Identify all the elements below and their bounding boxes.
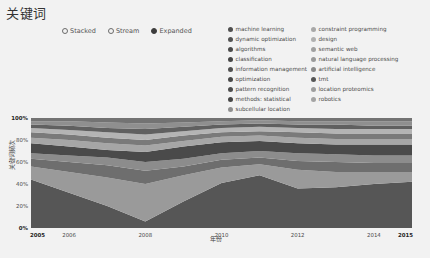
legend-swatch-icon [228,67,233,72]
legend-item[interactable]: methods: statistical [228,95,307,104]
legend-swatch-icon [311,47,316,52]
y-axis-tick-label: 20% [16,203,28,209]
x-axis-tick-label: 2005 [30,232,45,238]
legend-swatch-icon [228,87,233,92]
legend-swatch-icon [228,47,233,52]
legend-item[interactable]: classification [228,55,307,64]
x-axis-tick-label: 2006 [62,232,76,238]
legend-swatch-icon [228,57,233,62]
legend-item-label: algorithms [236,45,266,54]
legend-swatch-icon [311,77,316,82]
legend-swatch-icon [311,97,316,102]
y-axis-tick-label: 0% [19,225,29,231]
legend-item-label: information management [236,65,308,74]
legend-swatch-icon [311,87,316,92]
y-axis-title: 关键词频次 [8,140,16,170]
legend-item-label: design [319,35,338,44]
chart-legend: machine learning dynamic optimization al… [228,25,398,114]
legend-item-label: robotics [319,95,341,104]
legend-item-label: optimization [236,75,271,84]
legend-swatch-icon [228,77,233,82]
legend-item[interactable]: robotics [311,95,398,104]
y-axis: 100%80%60%40%20%0% [11,115,28,231]
legend-swatch-icon [228,37,233,42]
legend-item-label: pattern recognition [236,85,290,94]
legend-item[interactable]: pattern recognition [228,85,307,94]
legend-item[interactable]: semantic web [311,45,398,54]
legend-item-label: classification [236,55,272,64]
page-title: 关键词 [6,3,47,22]
legend-item[interactable]: optimization [228,75,307,84]
radio-option-stream[interactable]: Stream [108,27,140,35]
legend-swatch-icon [311,67,316,72]
x-axis-tick-label: 2015 [398,232,413,238]
radio-label: Stream [116,27,140,35]
legend-swatch-icon [311,37,316,42]
legend-swatch-icon [228,27,233,32]
legend-item[interactable]: information management [228,65,307,74]
legend-item[interactable]: location proteomics [311,85,398,94]
legend-item[interactable]: artificial intelligence [311,65,398,74]
x-axis-title: 年份 [210,235,222,243]
radio-dot-icon [62,28,68,34]
stacked-area-chart[interactable]: 100%80%60%40%20%0% 200520062008201020122… [0,110,430,258]
x-axis-tick-label: 2014 [367,232,381,238]
legend-item[interactable]: design [311,35,398,44]
x-axis-tick-label: 2012 [291,232,305,238]
legend-item-label: dynamic optimization [236,35,297,44]
layout-mode-radio-group[interactable]: Stacked Stream Expanded [62,27,192,35]
legend-swatch-icon [228,97,233,102]
chart-series-layers[interactable] [31,118,412,228]
radio-label: Stacked [70,27,96,35]
legend-item[interactable]: dynamic optimization [228,35,307,44]
legend-item-label: semantic web [319,45,358,54]
x-axis-tick-label: 2008 [138,232,152,238]
radio-dot-filled-icon [151,28,157,34]
legend-item[interactable]: constraint programming [311,25,398,34]
chart-svg[interactable]: 100%80%60%40%20%0% 200520062008201020122… [0,110,430,258]
legend-column-right: constraint programming design semantic w… [311,25,398,114]
y-axis-tick-label: 100% [11,115,28,121]
legend-item[interactable]: tmt [311,75,398,84]
legend-item-label: natural language processing [319,55,399,64]
radio-dot-icon [108,28,114,34]
legend-item-label: tmt [319,75,329,84]
legend-swatch-icon [311,57,316,62]
legend-item[interactable]: natural language processing [311,55,398,64]
legend-item[interactable]: algorithms [228,45,307,54]
y-axis-tick-label: 40% [16,181,28,187]
radio-label: Expanded [159,27,191,35]
legend-item-label: machine learning [236,25,285,34]
y-axis-tick-label: 60% [16,159,28,165]
legend-swatch-icon [311,27,316,32]
legend-item-label: methods: statistical [236,95,291,104]
legend-column-left: machine learning dynamic optimization al… [228,25,307,114]
legend-item-label: location proteomics [319,85,374,94]
radio-option-stacked[interactable]: Stacked [62,27,96,35]
legend-item[interactable]: machine learning [228,25,307,34]
y-axis-tick-label: 80% [16,137,28,143]
radio-option-expanded[interactable]: Expanded [151,27,191,35]
legend-item-label: constraint programming [319,25,387,34]
legend-item-label: artificial intelligence [319,65,376,74]
